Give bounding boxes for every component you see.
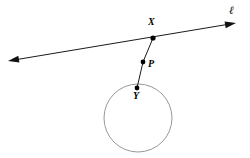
geometry-figure: ℓ X P Y bbox=[0, 0, 250, 158]
line-l-group bbox=[8, 21, 236, 62]
geometry-canvas bbox=[0, 0, 250, 158]
label-point-y: Y bbox=[133, 91, 139, 101]
arrow-head-left-icon bbox=[8, 56, 19, 63]
point-marker-x bbox=[150, 35, 155, 40]
arrow-head-right-icon bbox=[225, 21, 236, 28]
label-point-p: P bbox=[148, 59, 154, 69]
label-line-l: ℓ bbox=[229, 5, 234, 16]
label-point-x: X bbox=[148, 17, 155, 27]
point-marker-p bbox=[141, 60, 146, 65]
line-l-shaft bbox=[12, 24, 232, 61]
